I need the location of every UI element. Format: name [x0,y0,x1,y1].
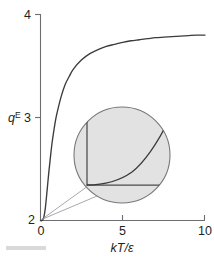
x-tick-label-10: 10 [198,224,212,238]
y-axis-title-text: q [8,111,15,125]
y-tick-label-3: 3 [24,111,31,125]
y-axis-ticks [35,15,41,118]
y-axis-title: qE [8,110,21,126]
x-axis-title: kT/ε [111,241,134,255]
x-tick-label-5: 5 [119,224,126,238]
origin-magnifier-inset [74,104,175,203]
y-axis-title-superscript: E [15,110,21,120]
y-tick-label-2: 2 [28,213,35,227]
electronic-partition-function-chart: 4 3 2 0 5 10 qE kT/ε [0,0,214,258]
x-axis-ticks [123,215,205,221]
scan-artifact-bar [6,246,46,250]
y-tick-label-4: 4 [24,8,31,22]
x-tick-label-0: 0 [38,224,45,238]
magnifier-disc [74,107,170,203]
chart-figure: 4 3 2 0 5 10 qE kT/ε [0,0,214,258]
